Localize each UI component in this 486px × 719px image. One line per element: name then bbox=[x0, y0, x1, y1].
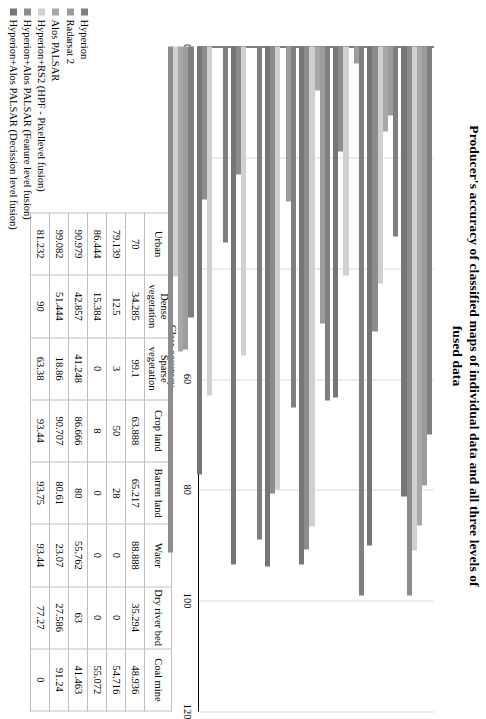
bar bbox=[183, 46, 188, 349]
table-cell: 63.38 bbox=[30, 337, 49, 399]
bar bbox=[231, 46, 236, 564]
table-row-label bbox=[125, 0, 144, 213]
table-cell: 55.762 bbox=[68, 524, 87, 586]
bar bbox=[412, 46, 417, 550]
table-cell: 28 bbox=[106, 462, 125, 524]
table-cell: 15.384 bbox=[87, 275, 106, 337]
bar bbox=[265, 46, 270, 566]
bar bbox=[393, 46, 398, 236]
table-row: 79.13912.5350280054.716 bbox=[106, 0, 125, 711]
bar bbox=[188, 46, 193, 317]
bar-group bbox=[161, 46, 195, 711]
table-cell: 50 bbox=[106, 399, 125, 461]
bar bbox=[168, 46, 173, 552]
figure-title: Producer's accuracy of classified maps o… bbox=[448, 0, 482, 711]
bar bbox=[383, 46, 388, 131]
legend-item-label: Hyperion+Alos PALSAR (Decission level fu… bbox=[7, 19, 20, 229]
plot-area bbox=[198, 46, 434, 711]
bar bbox=[299, 46, 304, 564]
bar-group bbox=[400, 46, 434, 711]
legend-item[interactable]: Hyperion bbox=[78, 8, 91, 268]
table-cell: 0 bbox=[106, 524, 125, 586]
table-cell: 63 bbox=[68, 586, 87, 648]
bar bbox=[344, 46, 349, 275]
bar bbox=[325, 46, 330, 400]
table-cell: 0 bbox=[87, 524, 106, 586]
bar bbox=[173, 46, 178, 276]
legend-item-label: Radarsat 2 bbox=[64, 19, 77, 64]
bar bbox=[359, 46, 364, 595]
legend: HyperionRadarsat 2Alos PALSARHyperion+RS… bbox=[6, 8, 91, 268]
legend-item[interactable]: Radarsat 2 bbox=[64, 8, 77, 268]
bar-group bbox=[298, 46, 332, 711]
table-cell: 12.5 bbox=[106, 275, 125, 337]
legend-swatch-icon bbox=[38, 8, 45, 15]
table-cell: 80 bbox=[68, 462, 87, 524]
legend-item-label: Hyperion+RS2 (HPF - Pixellevel fusion) bbox=[35, 19, 48, 191]
table-row: 7034.28599.163.88865.21788.88835.29448.9… bbox=[125, 0, 144, 711]
table-cell: 80.61 bbox=[49, 462, 68, 524]
table-cell: 55.072 bbox=[87, 648, 106, 710]
table-cell: 51.444 bbox=[49, 275, 68, 337]
bar bbox=[338, 46, 343, 151]
table-cell: 99.1 bbox=[125, 337, 144, 399]
legend-swatch-icon bbox=[24, 8, 31, 15]
legend-item[interactable]: Hyperion+Alos PALSAR (Feature level fusi… bbox=[21, 8, 34, 268]
bar-group bbox=[263, 46, 297, 711]
legend-swatch-icon bbox=[53, 8, 60, 15]
table-cell: 0 bbox=[30, 648, 49, 710]
table-cell: 35.294 bbox=[125, 586, 144, 648]
bar bbox=[241, 46, 246, 355]
bar bbox=[372, 46, 377, 331]
bar bbox=[275, 46, 280, 489]
plot-wrapper: Class accuracy 020406080100120 bbox=[172, 0, 434, 711]
legend-item[interactable]: Hyperion+RS2 (HPF - Pixellevel fusion) bbox=[35, 8, 48, 268]
legend-item-label: Hyperion bbox=[78, 19, 91, 59]
table-cell: 70 bbox=[125, 213, 144, 275]
table-cell: 23.07 bbox=[49, 524, 68, 586]
bar bbox=[333, 46, 338, 397]
bar-group bbox=[195, 46, 229, 711]
table-cell: 48.936 bbox=[125, 648, 144, 710]
bar bbox=[417, 46, 422, 525]
table-cell: 63.888 bbox=[125, 399, 144, 461]
table-cell: 91.24 bbox=[49, 648, 68, 710]
bar-group bbox=[366, 46, 400, 711]
bar-group bbox=[332, 46, 366, 711]
table-cell: 41.463 bbox=[68, 648, 87, 710]
bar bbox=[197, 46, 202, 474]
bar bbox=[427, 46, 432, 434]
legend-swatch-icon bbox=[10, 8, 17, 15]
table-cell: 54.716 bbox=[106, 648, 125, 710]
legend-item[interactable]: Hyperion+Alos PALSAR (Decission level fu… bbox=[7, 8, 20, 268]
bar bbox=[407, 46, 412, 595]
table-cell: 90 bbox=[30, 275, 49, 337]
bar bbox=[257, 46, 262, 539]
table-cell: 0 bbox=[106, 586, 125, 648]
bar bbox=[270, 46, 275, 493]
figure-title-line2: fused data bbox=[448, 0, 465, 711]
legend-item-label: Hyperion+Alos PALSAR (Feature level fusi… bbox=[21, 19, 34, 219]
table-cell: 86.666 bbox=[68, 399, 87, 461]
legend-item-label: Alos PALSAR bbox=[49, 19, 62, 81]
legend-item[interactable]: Alos PALSAR bbox=[49, 8, 62, 268]
table-cell: 8 bbox=[87, 399, 106, 461]
table-cell: 42.857 bbox=[68, 275, 87, 337]
table-cell: 0 bbox=[87, 462, 106, 524]
table-cell: 93.44 bbox=[30, 524, 49, 586]
table-cell: 27.586 bbox=[49, 586, 68, 648]
table-cell: 0 bbox=[87, 586, 106, 648]
bar bbox=[304, 46, 309, 549]
bar bbox=[202, 46, 207, 199]
table-cell: 93.44 bbox=[30, 399, 49, 461]
figure-title-line1: Producer's accuracy of classified maps o… bbox=[467, 125, 482, 586]
table-row-label bbox=[106, 0, 125, 213]
bar bbox=[286, 46, 291, 201]
bar bbox=[388, 46, 393, 115]
bar bbox=[422, 46, 427, 485]
table-cell: 3 bbox=[106, 337, 125, 399]
bar bbox=[236, 46, 241, 174]
table-cell: 77.27 bbox=[30, 586, 49, 648]
bar bbox=[309, 46, 314, 526]
